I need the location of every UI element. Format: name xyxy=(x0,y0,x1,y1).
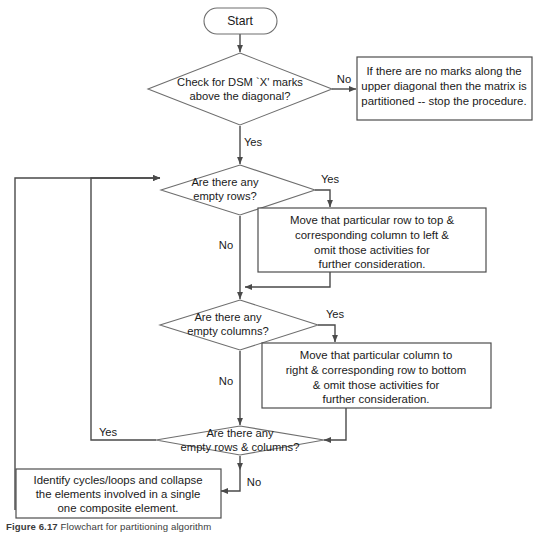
edge-identify-cycles-loopback xyxy=(15,178,160,470)
box-identify-cycles-line3: one composite element. xyxy=(58,502,179,514)
edge-label-rowscols-yes: Yes xyxy=(99,426,118,438)
edge-rows-yes-to-move-row xyxy=(315,190,330,207)
flowchart-canvas: Start Check for DSM `X' marks above the … xyxy=(0,0,540,535)
edge-rowscols-yes-loopback xyxy=(91,178,160,440)
box-partitioned-line3: partitioned -- stop the procedure. xyxy=(361,95,526,107)
box-partitioned-line1: If there are no marks along the xyxy=(366,65,521,77)
decision-empty-rows-columns-line1: Are there any xyxy=(206,427,274,439)
edge-columns-yes-to-move-column xyxy=(318,325,335,342)
edge-label-diagonal-no: No xyxy=(337,73,351,85)
edge-label-columns-yes: Yes xyxy=(326,308,345,320)
box-identify-cycles-line2: the elements involved in a single xyxy=(36,488,201,500)
box-move-column-line1: Move that particular column to xyxy=(300,349,453,361)
figure-caption-text: Flowchart for partitioning algorithm xyxy=(61,521,212,532)
decision-empty-rows-columns-line2: empty rows & columns? xyxy=(181,441,300,453)
flowchart-diagram: Start Check for DSM `X' marks above the … xyxy=(0,0,540,535)
box-move-row-line2: corresponding column to left & xyxy=(295,229,449,241)
edge-move-column-to-rows-columns xyxy=(324,408,346,440)
edge-label-columns-no: No xyxy=(219,375,233,387)
figure-caption-label: Figure 6.17 xyxy=(6,521,58,532)
box-move-row-line4: further consideration. xyxy=(318,258,425,270)
start-label: Start xyxy=(227,14,253,28)
decision-empty-rows-line1: Are there any xyxy=(191,176,259,188)
edge-move-row-merge xyxy=(245,272,330,287)
box-move-row-line3: omit those activities for xyxy=(314,244,430,256)
edge-label-rowscols-no: No xyxy=(247,476,261,488)
edge-label-diagonal-yes: Yes xyxy=(244,136,263,148)
decision-diagonal-line1: Check for DSM `X' marks xyxy=(177,76,303,88)
edge-no-trunk-into-identify-cycles xyxy=(221,470,240,491)
box-partitioned-line2: upper diagonal then the matrix is xyxy=(361,80,527,92)
box-move-column-line3: & omit those activities for xyxy=(313,379,440,391)
figure-caption: Figure 6.17 Flowchart for partitioning a… xyxy=(6,521,211,532)
edge-label-rows-no: No xyxy=(219,239,233,251)
decision-empty-columns-line1: Are there any xyxy=(194,311,262,323)
decision-empty-rows-line2: empty rows? xyxy=(193,190,256,202)
box-move-row-line1: Move that particular row to top & xyxy=(290,214,454,226)
edge-label-rows-yes: Yes xyxy=(321,173,340,185)
box-move-column-line4: further consideration. xyxy=(322,393,429,405)
box-move-column-line2: right & corresponding row to bottom xyxy=(286,364,466,376)
box-identify-cycles-line1: Identify cycles/loops and collapse xyxy=(33,474,202,486)
decision-empty-columns-line2: empty columns? xyxy=(187,325,268,337)
decision-diagonal-line2: above the diagonal? xyxy=(190,90,291,102)
